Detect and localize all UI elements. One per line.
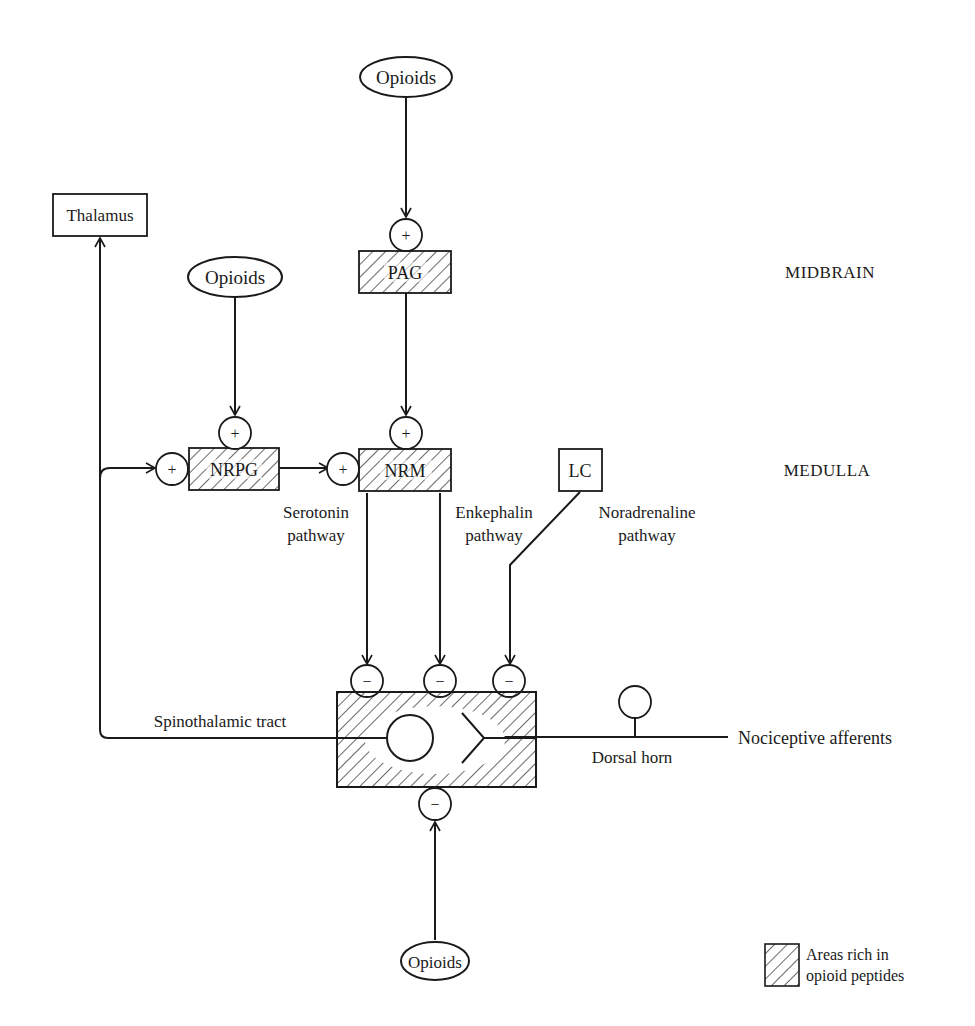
dorsal-horn-box xyxy=(337,692,536,787)
plus-sign-nrpg-left: + xyxy=(156,453,188,485)
enkephalin-label-1: Enkephalin xyxy=(455,503,533,522)
opioids-bottom-label: Opioids xyxy=(408,953,462,972)
minus-sign-opioids-bottom: − xyxy=(419,788,451,820)
svg-text:−: − xyxy=(504,673,513,690)
svg-text:+: + xyxy=(167,461,176,478)
opioids-mid-node: Opioids xyxy=(188,257,282,297)
opioids-bottom-node: Opioids xyxy=(401,942,469,980)
nrm-node: NRM xyxy=(359,449,451,491)
svg-text:+: + xyxy=(338,461,347,478)
serotonin-label-1: Serotonin xyxy=(283,503,350,522)
svg-text:−: − xyxy=(435,673,444,690)
spinothalamic-label: Spinothalamic tract xyxy=(154,712,287,731)
thalamus-node: Thalamus xyxy=(53,194,147,236)
lc-label: LC xyxy=(568,461,591,481)
legend-line-2: opioid peptides xyxy=(806,967,904,985)
plus-sign-nrm-top: + xyxy=(390,417,422,449)
arrow-tract-to-nrpg xyxy=(100,468,155,478)
neuron-cell-body xyxy=(387,715,433,761)
midbrain-label: MIDBRAIN xyxy=(785,263,875,282)
pag-label: PAG xyxy=(388,263,422,283)
noradrenaline-label-2: pathway xyxy=(618,526,676,545)
svg-text:+: + xyxy=(401,425,410,442)
plus-sign-nrm-left: + xyxy=(327,453,359,485)
opioids-top-node: Opioids xyxy=(360,57,452,97)
plus-sign-nrpg-top: + xyxy=(219,417,251,449)
svg-text:+: + xyxy=(230,425,239,442)
svg-text:−: − xyxy=(430,796,439,813)
svg-text:+: + xyxy=(401,227,410,244)
nrpg-node: NRPG xyxy=(189,448,279,490)
legend-line-1: Areas rich in xyxy=(806,946,889,963)
thalamus-label: Thalamus xyxy=(66,206,133,225)
opioids-top-label: Opioids xyxy=(376,67,436,88)
legend-hatch-swatch xyxy=(765,944,799,986)
opioids-mid-label: Opioids xyxy=(205,267,265,288)
plus-sign-pag: + xyxy=(390,219,422,251)
svg-text:−: − xyxy=(362,673,371,690)
legend: Areas rich in opioid peptides xyxy=(765,944,904,986)
pain-modulation-diagram: Opioids Opioids Opioids Thalamus PAG + N… xyxy=(0,0,975,1026)
nociceptive-afferents-label: Nociceptive afferents xyxy=(738,728,892,748)
nrm-label: NRM xyxy=(384,461,425,481)
nrpg-label: NRPG xyxy=(210,460,258,480)
medulla-label: MEDULLA xyxy=(784,461,871,480)
enkephalin-label-2: pathway xyxy=(465,526,523,545)
dorsal-horn-label: Dorsal horn xyxy=(592,748,673,767)
noradrenaline-label-1: Noradrenaline xyxy=(598,503,695,522)
afferent-cell-body xyxy=(619,686,651,718)
lc-node: LC xyxy=(559,449,602,491)
pag-node: PAG xyxy=(359,251,451,293)
serotonin-label-2: pathway xyxy=(287,526,345,545)
